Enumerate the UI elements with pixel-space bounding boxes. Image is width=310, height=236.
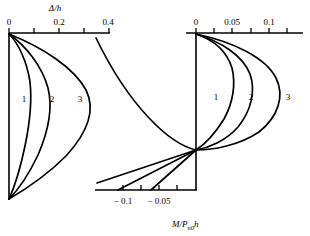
- right-curve-3-branch: [97, 150, 196, 183]
- right-ticklabel-neg005: − 0.05: [147, 196, 171, 206]
- right-ticklabel-005: 0.05: [224, 17, 240, 27]
- figure-canvas: Δ/h 0 0.2 0.4 1 2 3: [0, 0, 310, 236]
- left-ticklabel-0: 0: [7, 17, 12, 27]
- left-ticklabel-04: 0.4: [102, 17, 114, 27]
- left-curve-label-2: 2: [50, 94, 55, 104]
- right-curve-label-2: 2: [249, 92, 254, 102]
- right-ticklabel-01: 0.1: [263, 17, 274, 27]
- right-ticklabel-0: 0: [194, 17, 199, 27]
- right-axis-label-main: M/P: [171, 219, 188, 229]
- plot-svg: Δ/h 0 0.2 0.4 1 2 3: [0, 0, 310, 236]
- right-panel: 0 0.05 0.1 − 0.1 − 0.05 1 2 3 M/Pn0h: [95, 17, 303, 231]
- right-curve-tail-branch: [96, 38, 196, 150]
- right-curve-label-1: 1: [214, 92, 219, 102]
- left-panel: Δ/h 0 0.2 0.4 1 2 3: [7, 3, 114, 200]
- left-curve-label-1: 1: [22, 94, 27, 104]
- right-curve-2-lobe: [196, 34, 253, 150]
- right-axis-label: M/Pn0h: [171, 219, 199, 231]
- right-axis-label-tail: h: [194, 219, 199, 229]
- right-ticklabel-neg01: − 0.1: [114, 196, 133, 206]
- right-curve-label-3: 3: [286, 92, 291, 102]
- left-curve-label-3: 3: [78, 94, 83, 104]
- left-ticklabel-02: 0.2: [53, 17, 64, 27]
- right-curve-3-lobe: [196, 34, 280, 150]
- left-axis-label: Δ/h: [48, 3, 62, 13]
